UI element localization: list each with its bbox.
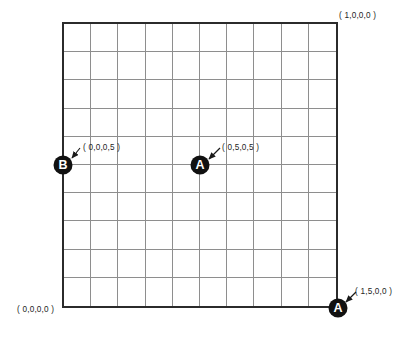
grid-cell xyxy=(227,278,254,306)
grid-cell xyxy=(146,80,173,108)
grid-cell xyxy=(309,250,336,278)
grid-cell xyxy=(254,165,281,193)
grid-cell xyxy=(309,165,336,193)
grid-cell xyxy=(254,278,281,306)
grid-cell xyxy=(309,221,336,249)
grid-cell xyxy=(91,52,118,80)
marker-label-a-corner: ( 1,5,0,0 ) xyxy=(355,287,392,296)
grid-cell xyxy=(282,80,309,108)
grid-cell xyxy=(309,24,336,52)
grid-cell xyxy=(146,137,173,165)
diagram-canvas: ( 1,0,0,0 ) ( 0,0,0,0 ) ( 0,0,0,5 ) ( 0,… xyxy=(0,0,415,338)
marker-a-center[interactable]: A xyxy=(191,156,210,175)
grid-cell xyxy=(64,24,91,52)
grid-cell xyxy=(91,278,118,306)
grid-cell xyxy=(200,221,227,249)
grid-cell xyxy=(64,52,91,80)
grid-cell xyxy=(146,250,173,278)
grid-cell xyxy=(146,109,173,137)
grid-cell xyxy=(200,80,227,108)
grid-cell xyxy=(200,109,227,137)
grid-cell xyxy=(118,221,145,249)
grid-cell xyxy=(309,109,336,137)
grid-cell xyxy=(118,109,145,137)
grid-cell xyxy=(282,278,309,306)
grid-cell xyxy=(200,250,227,278)
grid-cell xyxy=(200,24,227,52)
grid-cell xyxy=(91,80,118,108)
grid-cell xyxy=(282,221,309,249)
grid-cell xyxy=(254,24,281,52)
grid-cell xyxy=(173,278,200,306)
marker-label-a-center: ( 0,5,0,5 ) xyxy=(222,143,259,152)
grid-cell xyxy=(309,193,336,221)
grid-cell xyxy=(173,24,200,52)
marker-a-corner[interactable]: A xyxy=(329,299,348,318)
grid-cell xyxy=(146,165,173,193)
grid-cell xyxy=(91,109,118,137)
grid-cell xyxy=(200,278,227,306)
grid-cell xyxy=(173,250,200,278)
marker-label-b: ( 0,0,0,5 ) xyxy=(83,143,120,152)
grid-cell xyxy=(173,193,200,221)
grid-cell xyxy=(146,221,173,249)
grid-cell xyxy=(91,24,118,52)
corner-label-bottom-left: ( 0,0,0,0 ) xyxy=(17,305,54,314)
grid-cell xyxy=(309,137,336,165)
grid-cell xyxy=(173,109,200,137)
grid-cell xyxy=(254,109,281,137)
grid-cell xyxy=(227,165,254,193)
grid-cell xyxy=(227,52,254,80)
grid-cell xyxy=(118,193,145,221)
grid-cell xyxy=(64,278,91,306)
grid-cell xyxy=(146,193,173,221)
grid-cell xyxy=(91,165,118,193)
grid-cell xyxy=(173,80,200,108)
grid-cell xyxy=(227,193,254,221)
grid-cell xyxy=(118,24,145,52)
grid-cell xyxy=(282,250,309,278)
grid-cell xyxy=(282,137,309,165)
grid-cell xyxy=(227,221,254,249)
grid-cell xyxy=(173,221,200,249)
grid-cell xyxy=(146,24,173,52)
grid-cell xyxy=(282,109,309,137)
grid-cell xyxy=(146,278,173,306)
grid-cell xyxy=(227,109,254,137)
grid-cell xyxy=(118,80,145,108)
grid-cell xyxy=(118,137,145,165)
grid-cell xyxy=(64,250,91,278)
grid-cell xyxy=(254,80,281,108)
grid-cell xyxy=(282,52,309,80)
grid-cell xyxy=(118,250,145,278)
grid-cell xyxy=(227,24,254,52)
grid-cell xyxy=(282,193,309,221)
grid-cell xyxy=(118,278,145,306)
grid-cell xyxy=(91,221,118,249)
grid-cell xyxy=(64,109,91,137)
grid-cell xyxy=(64,80,91,108)
grid-cell xyxy=(282,24,309,52)
grid-cell xyxy=(91,250,118,278)
grid-cell xyxy=(254,221,281,249)
grid-cell xyxy=(254,193,281,221)
corner-label-top-right: ( 1,0,0,0 ) xyxy=(339,11,376,20)
grid-cell xyxy=(227,250,254,278)
grid-cell xyxy=(118,165,145,193)
grid-cell xyxy=(254,250,281,278)
grid-cell xyxy=(64,193,91,221)
grid-cell xyxy=(118,52,145,80)
grid-cell xyxy=(91,193,118,221)
grid-cell xyxy=(254,52,281,80)
grid-cell xyxy=(282,165,309,193)
grid-cell xyxy=(309,52,336,80)
grid-cell xyxy=(309,80,336,108)
grid-cell xyxy=(227,80,254,108)
marker-b-left[interactable]: B xyxy=(54,156,73,175)
grid-cell xyxy=(64,221,91,249)
grid-cell xyxy=(200,52,227,80)
grid-cell xyxy=(200,193,227,221)
grid-cell xyxy=(146,52,173,80)
grid-cell xyxy=(173,52,200,80)
